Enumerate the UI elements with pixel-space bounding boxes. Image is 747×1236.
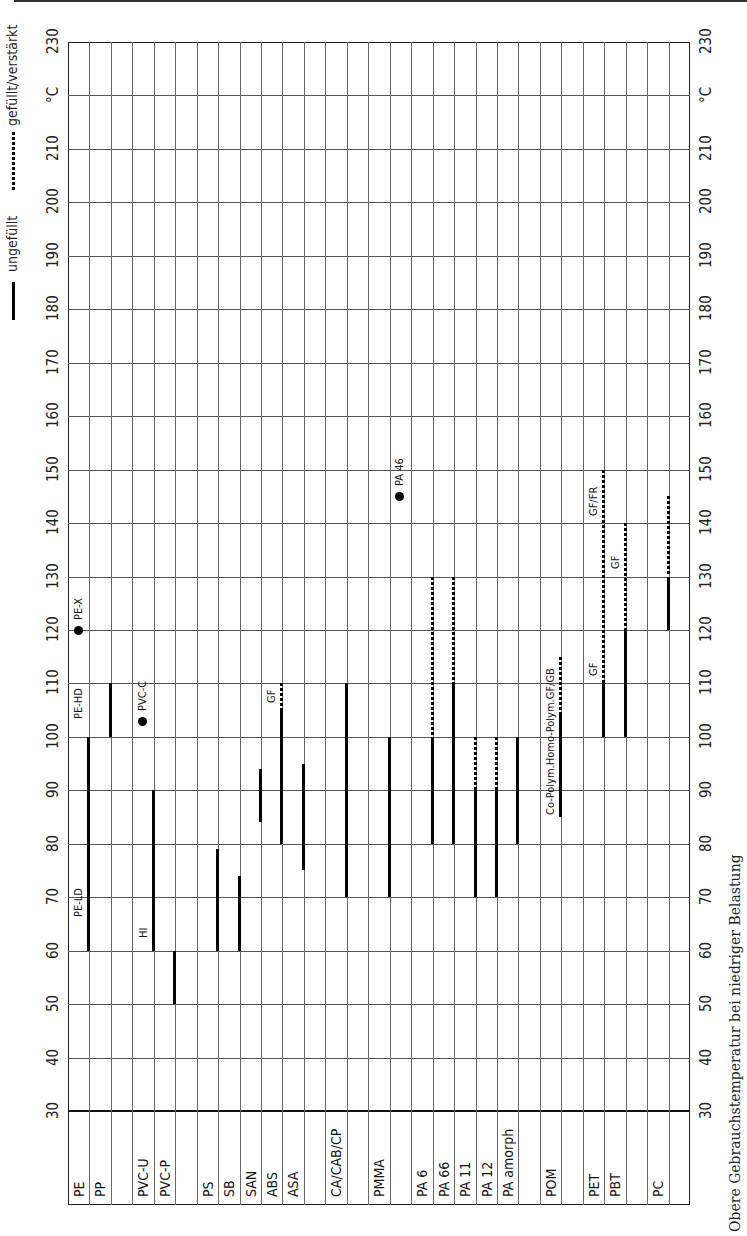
gridline-190 <box>68 256 690 257</box>
bar-filled-pa-6 <box>431 577 434 737</box>
column-divider <box>261 42 262 1205</box>
axis-tick-right-150: 150 <box>697 456 715 482</box>
chart-frame <box>68 42 690 1205</box>
column-divider <box>111 42 112 1205</box>
axis-tick-right-120: 120 <box>697 616 715 642</box>
column-label-pmma: PMMA <box>371 1159 387 1197</box>
bar-unfilled-pa-12 <box>495 790 498 897</box>
bar-annotation-pvc-u: HI <box>137 928 150 938</box>
legend-solid-line-icon <box>12 282 15 320</box>
bar-unfilled-san <box>259 769 262 822</box>
bar-unfilled-pa-amorph <box>516 737 519 844</box>
bar-unfilled-pbt <box>624 630 627 737</box>
bar-filled-pa-66 <box>452 577 455 684</box>
point-label-pvc-c: PVC-C <box>136 681 149 711</box>
bar-unfilled-pmma <box>388 737 391 897</box>
axis-tick-left-100: 100 <box>44 723 62 749</box>
column-label-pc: PC <box>650 1181 666 1197</box>
legend-dotted-label: gefüllt/verstärkt <box>4 25 20 126</box>
gridline-180 <box>68 309 690 310</box>
column-divider <box>540 42 541 1205</box>
legend-dotted-line-icon <box>12 132 15 190</box>
column-label-pet: PET <box>586 1174 602 1197</box>
bar-unfilled-pa-6 <box>431 737 434 844</box>
bar-filled-abs <box>280 683 283 710</box>
column-label-pbt: PBT <box>607 1173 623 1197</box>
axis-tick-left-220: °C <box>44 87 62 103</box>
axis-tick-right-50: 50 <box>697 995 715 1012</box>
axis-tick-left-150: 150 <box>44 456 62 482</box>
gridline-50 <box>68 1004 690 1005</box>
axis-tick-left-160: 160 <box>44 402 62 428</box>
column-divider <box>647 42 648 1205</box>
column-divider <box>561 42 562 1205</box>
gridline-210 <box>68 149 690 150</box>
axis-tick-left-170: 170 <box>44 349 62 375</box>
axis-tick-right-220: °C <box>697 87 715 103</box>
bar-annotation-pe: PE-LD <box>72 888 85 917</box>
bar-unfilled-pet <box>602 683 605 736</box>
axis-tick-right-140: 140 <box>697 509 715 535</box>
axis-tick-right-130: 130 <box>697 563 715 589</box>
axis-tick-left-40: 40 <box>44 1048 62 1065</box>
bar-annotation-pet: GF <box>587 663 600 676</box>
column-divider <box>390 42 391 1205</box>
bar-filled-pa-11 <box>474 737 477 790</box>
column-label-pa-amorph: PA amorph <box>500 1129 516 1197</box>
column-label-ca-cab-cp: CA/CAB/CP <box>328 1129 344 1197</box>
column-divider <box>325 42 326 1205</box>
axis-tick-right-160: 160 <box>697 402 715 428</box>
axis-tick-left-140: 140 <box>44 509 62 535</box>
gridline-40 <box>68 1058 690 1059</box>
gridline-150 <box>68 470 690 471</box>
bar-unfilled-pvc-p <box>173 951 176 1004</box>
axis-tick-right-60: 60 <box>697 941 715 958</box>
axis-tick-right-180: 180 <box>697 295 715 321</box>
column-divider <box>368 42 369 1205</box>
column-label-pa-11: PA 11 <box>457 1162 473 1197</box>
point-label-pe-x: PE-X <box>72 598 85 620</box>
axis-tick-left-200: 200 <box>44 189 62 215</box>
column-label-ps: PS <box>200 1181 216 1197</box>
axis-tick-right-70: 70 <box>697 888 715 905</box>
page-top-rule <box>14 0 747 2</box>
gridline-160 <box>68 416 690 417</box>
gridline-170 <box>68 363 690 364</box>
bar-annotation-pbt: GF <box>609 556 622 569</box>
column-divider <box>476 42 477 1205</box>
column-divider <box>411 42 412 1205</box>
bar-annotation-pet: GF/FR <box>587 486 600 515</box>
axis-tick-right-90: 90 <box>697 781 715 798</box>
column-divider <box>218 42 219 1205</box>
column-divider <box>282 42 283 1205</box>
bar-unfilled-asa <box>302 764 305 871</box>
bar-unfilled-ps <box>216 849 219 951</box>
column-divider <box>304 42 305 1205</box>
gridline-80 <box>68 844 690 845</box>
axis-tick-left-180: 180 <box>44 295 62 321</box>
bar-unfilled-pvc-u <box>152 790 155 950</box>
column-label-abs: ABS <box>264 1172 280 1197</box>
axis-tick-right-170: 170 <box>697 349 715 375</box>
axis-tick-right-40: 40 <box>697 1048 715 1065</box>
bar-unfilled-pa-11 <box>474 790 477 897</box>
axis-tick-left-70: 70 <box>44 888 62 905</box>
bar-annotation-pe: PE-HD <box>72 688 85 719</box>
axis-tick-left-90: 90 <box>44 781 62 798</box>
column-label-pp: PP <box>92 1182 108 1197</box>
column-divider <box>175 42 176 1205</box>
column-divider <box>518 42 519 1205</box>
bar-unfilled-sb <box>238 876 241 951</box>
axis-tick-left-50: 50 <box>44 995 62 1012</box>
column-divider <box>132 42 133 1205</box>
bar-filled-pbt <box>624 523 627 630</box>
column-divider <box>154 42 155 1205</box>
gridline-100 <box>68 737 690 738</box>
column-divider <box>583 42 584 1205</box>
axis-tick-left-190: 190 <box>44 242 62 268</box>
column-divider <box>89 42 90 1205</box>
bar-unfilled-pa-66 <box>452 683 455 843</box>
axis-tick-right-200: 200 <box>697 189 715 215</box>
bar-unfilled-pc <box>667 577 670 630</box>
axis-tick-left-60: 60 <box>44 941 62 958</box>
